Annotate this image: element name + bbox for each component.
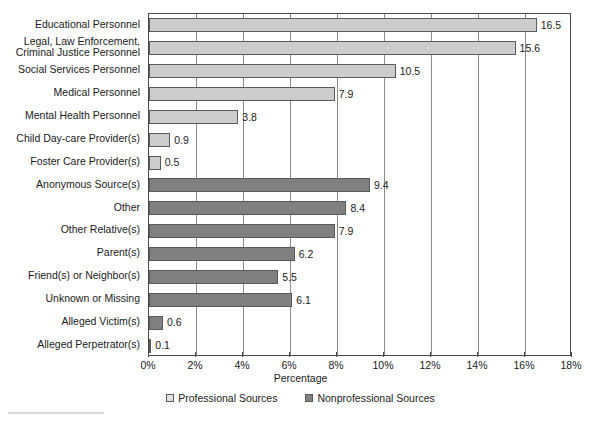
bar-nonprofessional[interactable]: [149, 178, 370, 192]
bar-row: 9.4: [149, 174, 570, 197]
x-tick-mark: [383, 352, 384, 357]
bar-value-label: 16.5: [541, 20, 561, 31]
bar-professional[interactable]: [149, 64, 396, 78]
bar-row: 0.9: [149, 128, 570, 151]
bar-row: 7.9: [149, 83, 570, 106]
category-axis-labels: Educational PersonnelLegal, Law Enforcem…: [0, 13, 144, 356]
legend-item-nonprofessional[interactable]: Nonprofessional Sources: [305, 392, 434, 404]
category-label: Friend(s) or Neighbor(s): [0, 270, 144, 282]
bar-row: 7.9: [149, 220, 570, 243]
x-tick-mark: [524, 352, 525, 357]
legend-label: Professional Sources: [178, 392, 277, 404]
category-label: Mental Health Personnel: [0, 110, 144, 122]
plot-area: 16.515.610.57.93.80.90.59.48.47.96.25.56…: [148, 13, 571, 356]
bar-row: 15.6: [149, 37, 570, 60]
legend-label: Nonprofessional Sources: [317, 392, 434, 404]
x-tick-label: 4%: [234, 359, 249, 371]
bar-row: 0.6: [149, 311, 570, 334]
x-tick-label: 18%: [560, 359, 581, 371]
bar-value-label: 8.4: [350, 203, 365, 214]
x-axis-title: Percentage: [0, 372, 601, 384]
bar-nonprofessional[interactable]: [149, 247, 295, 261]
legend-swatch-icon: [166, 394, 174, 402]
bar-value-label: 7.9: [339, 89, 354, 100]
bar-value-label: 10.5: [400, 66, 420, 77]
bar-professional[interactable]: [149, 133, 170, 147]
bar-value-label: 0.1: [155, 340, 170, 351]
bar-value-label: 0.6: [167, 317, 182, 328]
bar-nonprofessional[interactable]: [149, 224, 335, 238]
bar-value-label: 6.2: [299, 249, 314, 260]
x-tick-mark: [336, 352, 337, 357]
bar-value-label: 6.1: [296, 295, 311, 306]
bar-professional[interactable]: [149, 18, 537, 32]
bar-value-label: 3.8: [242, 112, 257, 123]
bar-row: 6.2: [149, 243, 570, 266]
bar-professional[interactable]: [149, 41, 516, 55]
bar-row: 5.5: [149, 266, 570, 289]
scan-artifact-line: [8, 412, 104, 414]
x-tick-mark: [148, 352, 149, 357]
bar-row: 10.5: [149, 60, 570, 83]
x-tick-label: 2%: [187, 359, 202, 371]
bar-row: 0.5: [149, 151, 570, 174]
category-label: Alleged Perpetrator(s): [0, 339, 144, 351]
x-tick-label: 14%: [466, 359, 487, 371]
category-label: Child Day-care Provider(s): [0, 133, 144, 145]
x-tick-label: 10%: [372, 359, 393, 371]
bar-chart: 16.515.610.57.93.80.90.59.48.47.96.25.56…: [0, 0, 601, 422]
category-label: Other Relative(s): [0, 224, 144, 236]
x-tick-mark: [195, 352, 196, 357]
category-label: Anonymous Source(s): [0, 179, 144, 191]
x-tick-label: 6%: [281, 359, 296, 371]
legend-swatch-icon: [305, 394, 313, 402]
x-tick-label: 0%: [140, 359, 155, 371]
x-tick-mark: [477, 352, 478, 357]
bar-nonprofessional[interactable]: [149, 293, 292, 307]
bar-value-label: 15.6: [520, 43, 540, 54]
bar-row: 3.8: [149, 105, 570, 128]
bar-value-label: 9.4: [374, 180, 389, 191]
x-tick-label: 12%: [419, 359, 440, 371]
bar-nonprofessional[interactable]: [149, 316, 163, 330]
bar-professional[interactable]: [149, 156, 161, 170]
x-tick-mark: [289, 352, 290, 357]
bar-row: 6.1: [149, 288, 570, 311]
category-label: Parent(s): [0, 247, 144, 259]
x-tick-mark: [430, 352, 431, 357]
x-tick-mark: [242, 352, 243, 357]
legend-item-professional[interactable]: Professional Sources: [166, 392, 277, 404]
bar-row: 8.4: [149, 197, 570, 220]
bar-nonprofessional[interactable]: [149, 201, 346, 215]
category-label: Unknown or Missing: [0, 293, 144, 305]
category-label: Educational Personnel: [0, 19, 144, 31]
x-tick-label: 8%: [328, 359, 343, 371]
category-label: Other: [0, 202, 144, 214]
x-tick-label: 16%: [513, 359, 534, 371]
category-label: Alleged Victim(s): [0, 316, 144, 328]
category-label: Legal, Law Enforcement, Criminal Justice…: [0, 36, 144, 59]
category-label: Foster Care Provider(s): [0, 156, 144, 168]
x-axis-ticks: 0%2%4%6%8%10%12%14%16%18%: [0, 357, 601, 373]
bar-professional[interactable]: [149, 87, 335, 101]
bar-nonprofessional[interactable]: [149, 339, 151, 353]
bar-row: 16.5: [149, 14, 570, 37]
category-label: Social Services Personnel: [0, 64, 144, 76]
chart-legend: Professional SourcesNonprofessional Sour…: [0, 392, 601, 404]
bar-value-label: 5.5: [282, 272, 297, 283]
bar-value-label: 0.9: [174, 135, 189, 146]
bar-professional[interactable]: [149, 110, 238, 124]
x-tick-mark: [571, 352, 572, 357]
bar-row: 0.1: [149, 334, 570, 357]
category-label: Medical Personnel: [0, 87, 144, 99]
bar-value-label: 0.5: [165, 157, 180, 168]
bar-nonprofessional[interactable]: [149, 270, 278, 284]
bar-value-label: 7.9: [339, 226, 354, 237]
